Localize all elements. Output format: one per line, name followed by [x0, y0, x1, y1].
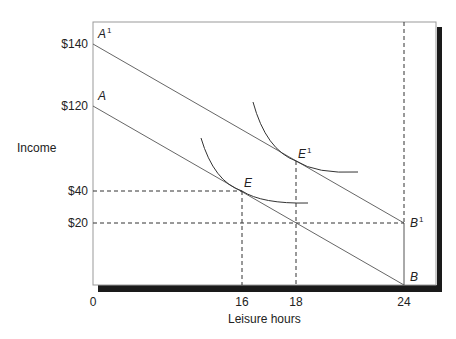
y-tick-140: $140 [38, 37, 88, 51]
y-tick-20: $20 [38, 216, 88, 230]
x-tick-0: 0 [78, 295, 108, 309]
point-label-a: A [98, 89, 106, 103]
frame-shadow-right [437, 27, 442, 292]
point-label-e-text: E [244, 176, 252, 190]
point-label-e: E [244, 176, 252, 190]
frame-shadow-bottom [98, 285, 442, 292]
point-label-a1-base: A [98, 27, 106, 41]
x-axis-title: Leisure hours [228, 312, 301, 326]
indifference-curve-lower [201, 138, 308, 203]
plot-frame [93, 22, 436, 285]
point-label-b: B [410, 270, 418, 284]
point-label-a1-sup: 1 [107, 26, 111, 35]
point-label-e1: E1 [298, 146, 311, 161]
budget-line-a1-b1 [93, 44, 404, 223]
point-label-b1-sup: 1 [419, 215, 423, 224]
y-axis-title: Income [17, 141, 56, 155]
point-label-b-text: B [410, 270, 418, 284]
point-label-e1-sup: 1 [307, 146, 311, 155]
indifference-curve-upper [253, 102, 358, 172]
x-tick-24: 24 [389, 295, 419, 309]
x-tick-16: 16 [227, 295, 257, 309]
budget-line-a-b [93, 106, 404, 285]
y-tick-120: $120 [38, 99, 88, 113]
point-label-a-text: A [98, 89, 106, 103]
x-tick-18: 18 [281, 295, 311, 309]
point-label-b1-base: B [410, 216, 418, 230]
y-tick-40: $40 [38, 184, 88, 198]
point-label-a1: A1 [98, 26, 111, 41]
point-label-e1-base: E [298, 147, 306, 161]
point-label-b1: B1 [410, 215, 423, 230]
